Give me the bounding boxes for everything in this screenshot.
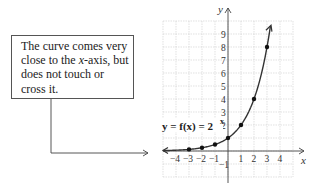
data-point (226, 136, 230, 140)
equation-text: y = f(x) = 2 (162, 120, 214, 133)
data-point (200, 146, 204, 150)
callout-pointer-arrow (51, 99, 148, 156)
graph-canvas: x y −4−3−2−11234 −123456789 y = f(x) = 2… (0, 0, 318, 193)
x-tick-label: 1 (239, 154, 244, 164)
y-tick-label: 6 (221, 69, 226, 79)
y-tick-label: 7 (221, 56, 226, 66)
equation-exponent: x (220, 117, 224, 126)
y-tick-label: −1 (219, 160, 229, 170)
y-tick-label: 3 (221, 108, 226, 118)
x-tick-label: 2 (252, 154, 257, 164)
data-point (265, 45, 269, 49)
y-tick-label: 9 (221, 30, 226, 40)
x-tick-label: −1 (209, 154, 219, 164)
data-point (213, 142, 217, 146)
x-tick-label: −3 (183, 154, 193, 164)
x-tick-label: −2 (196, 154, 206, 164)
data-point (239, 123, 243, 127)
x-tick-label: 4 (278, 154, 283, 164)
data-point (252, 97, 256, 101)
y-axis-label: y (217, 3, 223, 15)
x-axis-label: x (300, 154, 306, 166)
y-tick-label: 5 (221, 82, 226, 92)
y-tick-label: 8 (221, 43, 226, 53)
x-tick-label: 3 (265, 154, 270, 164)
x-tick-label: −4 (170, 154, 180, 164)
y-tick-label: 4 (221, 95, 226, 105)
data-point (187, 147, 191, 151)
equation-label: y = f(x) = 2 x (161, 117, 224, 133)
